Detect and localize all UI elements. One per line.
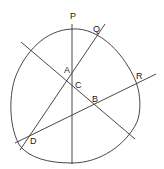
label-B: B <box>92 94 98 104</box>
line-Q <box>20 24 105 150</box>
label-C: C <box>75 80 82 90</box>
label-A: A <box>64 65 70 75</box>
line-diagonal <box>21 42 135 139</box>
label-P: P <box>70 11 76 21</box>
label-D: D <box>30 136 37 146</box>
diagram-canvas: P Q R A C B D <box>0 0 164 169</box>
label-R: R <box>136 71 143 81</box>
label-Q: Q <box>93 24 100 34</box>
geometry-diagram: P Q R A C B D <box>0 0 164 169</box>
line-R <box>15 74 156 143</box>
